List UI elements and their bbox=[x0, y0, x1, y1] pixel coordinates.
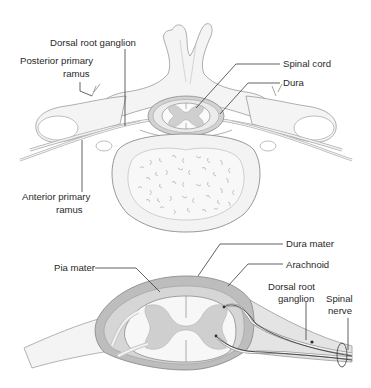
label-posterior-primary-ramus-2: ramus bbox=[63, 68, 90, 79]
label-dorsal-root-ganglion-bottom-1: Dorsal root bbox=[268, 281, 315, 292]
label-dorsal-root-ganglion-top: Dorsal root ganglion bbox=[50, 37, 136, 48]
label-arachnoid: Arachnoid bbox=[286, 259, 329, 270]
label-dura: Dura bbox=[283, 77, 304, 88]
label-pia-mater: Pia mater bbox=[54, 262, 96, 273]
label-spinal-cord: Spinal cord bbox=[283, 58, 331, 69]
label-dorsal-root-ganglion-bottom-2: ganglion bbox=[278, 293, 314, 304]
label-posterior-primary-ramus-1: Posterior primary bbox=[20, 55, 93, 66]
spinal-anatomy-figure: Dorsal root ganglion Posterior primary r… bbox=[0, 0, 371, 388]
label-dura-mater: Dura mater bbox=[286, 238, 335, 249]
label-anterior-primary-ramus-1: Anterior primary bbox=[22, 191, 90, 202]
cancellous-bone bbox=[128, 148, 244, 220]
label-spinal-nerve-1: Spinal bbox=[326, 293, 353, 304]
label-anterior-primary-ramus-2: ramus bbox=[56, 204, 83, 215]
label-spinal-nerve-2: nerve bbox=[328, 305, 352, 316]
left-nerve-sleeve bbox=[24, 318, 104, 368]
dorsal-root-ganglion-dot bbox=[310, 340, 313, 343]
